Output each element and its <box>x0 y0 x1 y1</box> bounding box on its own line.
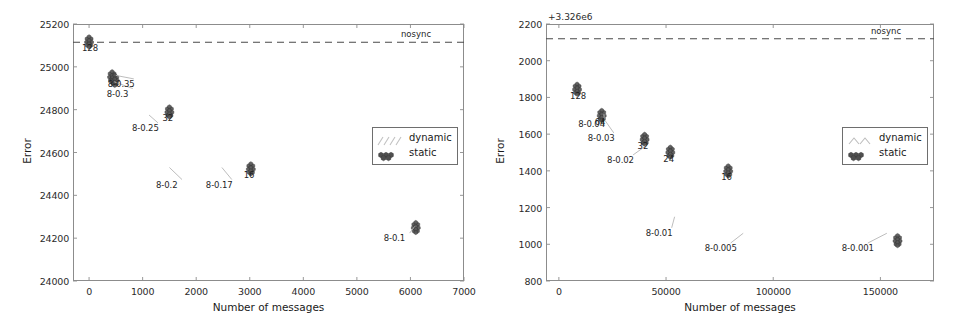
dynamic-leader-line <box>169 167 182 179</box>
static-data-marker <box>893 233 902 247</box>
legend-label-dynamic: dynamic <box>409 132 452 144</box>
dynamic-marker-icon <box>377 132 403 144</box>
legend-label-dynamic: dynamic <box>879 132 922 144</box>
legend-label-static: static <box>879 147 906 159</box>
y-tick-label: 1000 <box>498 239 542 250</box>
x-tick-label: 50000 <box>651 286 680 297</box>
static-marker-icon <box>377 147 403 159</box>
y-tick-label: 24800 <box>25 104 69 115</box>
legend-item-static: static <box>847 146 922 161</box>
dynamic-leader-line <box>672 217 675 228</box>
y-tick-label: 24000 <box>25 276 69 287</box>
legend-item-dynamic: dynamic <box>377 131 452 146</box>
y-tick-label: 25000 <box>25 61 69 72</box>
dynamic-annotation-label: 8-0.25 <box>132 123 159 133</box>
static-marker-icon <box>847 147 873 159</box>
x-tick-label: 5000 <box>345 286 368 297</box>
x-tick-label: 0 <box>86 286 92 297</box>
static-data-marker <box>411 220 420 234</box>
data-point-label: 128 <box>82 43 98 53</box>
data-point-label: 16 <box>721 172 732 182</box>
legend-left: dynamic static <box>372 127 458 165</box>
legend-item-dynamic: dynamic <box>847 131 922 146</box>
dynamic-leader-line <box>222 167 232 179</box>
dynamic-leader-line <box>605 120 614 133</box>
y-tick-label: 1200 <box>498 202 542 213</box>
x-tick-label: 2000 <box>184 286 207 297</box>
data-point-label: 16 <box>244 170 255 180</box>
y-axis-label-left: Error <box>21 121 33 181</box>
y-tick-label: 2200 <box>498 19 542 30</box>
x-tick-label: 4000 <box>292 286 315 297</box>
dynamic-annotation-label: 8-0.2 <box>156 180 178 190</box>
dynamic-leader-line <box>731 233 744 243</box>
x-tick-label: 7000 <box>452 286 475 297</box>
dynamic-annotation-label: 8-0.001 <box>842 243 874 253</box>
dynamic-annotation-label: 8-0.17 <box>206 180 233 190</box>
y-tick-label: 1800 <box>498 92 542 103</box>
dynamic-leader-line <box>868 233 887 243</box>
x-tick-label: 100000 <box>756 286 791 297</box>
dynamic-annotation-label: 8-0.3 <box>107 89 129 99</box>
data-point-label: 24 <box>663 154 674 164</box>
x-axis-label-right: Number of messages <box>684 301 796 313</box>
x-tick-label: 6000 <box>399 286 422 297</box>
chart-panel-left: 2400024200244002460024800250002520001000… <box>0 0 483 323</box>
x-tick-label: 0 <box>556 286 562 297</box>
dynamic-annotation-label: 8-0.01 <box>646 228 673 238</box>
y-tick-label: 2000 <box>498 55 542 66</box>
y-tick-label: 25200 <box>25 19 69 30</box>
figure-canvas: 2400024200244002460024800250002520001000… <box>0 0 967 323</box>
dynamic-annotation-label: 8-0.1 <box>384 233 406 243</box>
y-tick-label: 24200 <box>25 233 69 244</box>
x-tick-label: 3000 <box>238 286 261 297</box>
chart-panel-right: 8001000120014001600180020002200050000100… <box>484 0 967 323</box>
x-axis-label-left: Number of messages <box>213 301 325 313</box>
dynamic-marker-icon <box>847 132 873 144</box>
nosync-reference-label: nosync <box>871 26 901 36</box>
x-tick-label: 1000 <box>131 286 154 297</box>
data-point-label: 32 <box>162 113 173 123</box>
dynamic-annotation-label: 8-0.005 <box>705 243 737 253</box>
dynamic-annotation-label: 8-0.02 <box>607 155 634 165</box>
x-tick-label: 150000 <box>863 286 898 297</box>
nosync-reference-label: nosync <box>401 29 431 39</box>
y-axis-offset-right: +3.326e6 <box>548 12 593 22</box>
data-point-label: 128 <box>570 91 586 101</box>
y-tick-label: 24400 <box>25 190 69 201</box>
dynamic-annotation-label: 8-0.35 <box>108 79 135 89</box>
y-axis-label-right: Error <box>494 121 506 181</box>
legend-item-static: static <box>377 146 452 161</box>
legend-right: dynamic static <box>842 127 928 165</box>
legend-label-static: static <box>409 147 436 159</box>
y-tick-label: 800 <box>498 276 542 287</box>
dynamic-annotation-label: 8-0.04 <box>578 119 605 129</box>
dynamic-annotation-label: 8-0.03 <box>588 133 615 143</box>
data-point-label: 32 <box>638 141 649 151</box>
dynamic-leader-line <box>149 115 158 123</box>
